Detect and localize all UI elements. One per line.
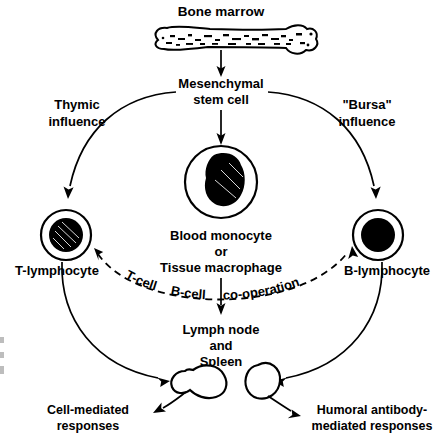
scan-edge-artifacts — [0, 337, 4, 374]
label-lymph-line1: Lymph node — [183, 322, 260, 337]
arrow-humoral-output — [268, 396, 301, 418]
arrow-stemcell-to-monocyte — [217, 110, 226, 145]
arrow-cell-mediated-output — [153, 392, 186, 413]
label-humoral-line1: Humoral antibody- — [317, 403, 427, 417]
label-cell-mediated-line2: responses — [57, 419, 120, 433]
coop-part-2: B-cell — [170, 283, 207, 302]
label-thymic-line1: Thymic — [54, 97, 100, 112]
label-t-lymphocyte: T-lymphocyte — [15, 263, 99, 278]
cell-b-lymphocyte — [353, 210, 403, 260]
cell-t-lymphocyte — [41, 210, 91, 260]
label-monocyte-line1: Blood monocyte — [170, 228, 272, 243]
coop-part-1: T-cell — [123, 267, 159, 293]
organ-spleen — [245, 363, 280, 399]
label-bursa-line1: "Bursa" — [342, 97, 391, 112]
label-humoral-line2: mediated responses — [312, 419, 433, 433]
label-bursa-line2: influence — [338, 114, 395, 129]
cell-blood-monocyte — [185, 146, 257, 218]
label-cell-mediated-line1: Cell-mediated — [47, 403, 129, 417]
label-thymic-line2: influence — [48, 114, 105, 129]
arrow-marrow-to-stemcell — [217, 50, 226, 77]
label-lymph-line2: and — [209, 338, 232, 353]
label-stem-cell-line2: stem cell — [193, 92, 249, 107]
lymphocyte-development-diagram: Bone marrow — [0, 0, 443, 437]
figure-canvas: Bone marrow — [0, 0, 443, 437]
label-b-lymphocyte: B-lymphocyte — [344, 263, 430, 278]
organ-lymph-node — [171, 365, 226, 398]
bone-marrow-illustration — [156, 25, 318, 53]
label-bone-marrow: Bone marrow — [178, 4, 265, 19]
label-monocyte-line3: Tissue macrophage — [160, 260, 282, 275]
coop-part-3: co-operation — [223, 274, 302, 302]
label-stem-cell-line1: Mesenchymal — [178, 76, 263, 91]
label-monocyte-line2: or — [215, 244, 228, 259]
